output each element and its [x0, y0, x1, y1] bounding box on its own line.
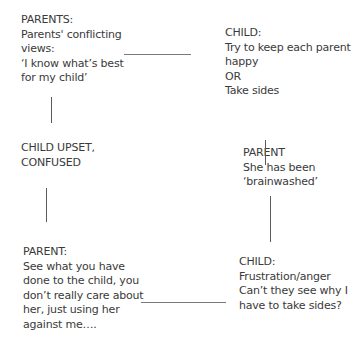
connector-parents-to-upset [51, 97, 52, 123]
node-text: her, just using her [23, 303, 143, 318]
node-text: done to the child, you [23, 274, 143, 289]
node-heading: CHILD: [225, 26, 351, 41]
node-child-frustration: CHILD: Frustration/anger Can’t they see … [239, 255, 348, 313]
node-text: views: [21, 42, 124, 57]
node-text: against me…. [23, 318, 143, 333]
connector-parents-to-child [124, 54, 191, 55]
node-text: Take sides [225, 84, 351, 99]
connector-parent-to-child-frustration [141, 302, 226, 303]
connector-child-to-parent [265, 140, 266, 165]
node-text: CONFUSED [21, 156, 95, 171]
node-parents-views: PARENTS: Parents' conflicting views: ‘I … [21, 13, 124, 86]
node-heading: PARENT [243, 146, 318, 161]
node-text: for my child’ [21, 71, 124, 86]
connector-parent-to-child [270, 196, 271, 242]
node-parent-brainwashed: PARENT She has been ‘brainwashed’ [243, 146, 318, 190]
node-text: Try to keep each parent [225, 41, 351, 56]
node-heading: PARENT: [23, 245, 143, 260]
node-text: See what you have [23, 260, 143, 275]
node-child-upset: CHILD UPSET, CONFUSED [21, 141, 95, 170]
node-text: She has been [243, 161, 318, 176]
node-text: ‘I know what’s best [21, 57, 124, 72]
node-text: Parents' conflicting [21, 28, 124, 43]
node-text: Frustration/anger [239, 270, 348, 285]
node-heading: PARENTS: [21, 13, 124, 28]
node-text: have to take sides? [239, 299, 348, 314]
node-heading: CHILD: [239, 255, 348, 270]
node-text: Can’t they see why I [239, 284, 348, 299]
node-text: ‘brainwashed’ [243, 175, 318, 190]
connector-upset-to-parent [46, 188, 47, 222]
node-parent-accuses: PARENT: See what you have done to the ch… [23, 245, 143, 332]
node-child-choice: CHILD: Try to keep each parent happy OR … [225, 26, 351, 99]
node-text: OR [225, 70, 351, 85]
node-text: happy [225, 55, 351, 70]
node-text: don’t really care about [23, 289, 143, 304]
node-heading: CHILD UPSET, [21, 141, 95, 156]
